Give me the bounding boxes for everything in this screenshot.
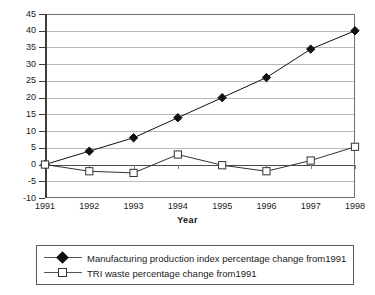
gridline bbox=[46, 131, 354, 132]
y-axis-tick-label: 5 bbox=[10, 143, 36, 152]
gridline bbox=[46, 114, 354, 115]
y-axis-tick-mark bbox=[39, 31, 45, 32]
plot-area bbox=[45, 14, 355, 198]
x-axis-tick-label: 1998 bbox=[335, 201, 375, 211]
y-axis-tick-label: 0 bbox=[10, 160, 36, 169]
y-axis-tick-mark bbox=[39, 148, 45, 149]
x-axis-tick-label: 1997 bbox=[291, 201, 331, 211]
x-axis-tick-mark bbox=[89, 165, 90, 169]
y-axis-tick-mark bbox=[39, 47, 45, 48]
y-axis-tick-label: 40 bbox=[10, 26, 36, 35]
legend-item-tri-waste: TRI waste percentage change from1991 bbox=[44, 266, 257, 280]
y-axis-tick-mark bbox=[39, 181, 45, 182]
y-axis-tick-mark bbox=[39, 64, 45, 65]
y-axis-tick-mark bbox=[39, 98, 45, 99]
gridline bbox=[46, 81, 354, 82]
x-axis-tick-label: 1994 bbox=[158, 201, 198, 211]
x-axis-tick-mark bbox=[266, 165, 267, 169]
open-square-marker-icon bbox=[44, 267, 82, 279]
y-axis-tick-mark bbox=[39, 165, 45, 166]
gridline bbox=[46, 98, 354, 99]
y-axis-tick-mark bbox=[39, 81, 45, 82]
legend-label-manufacturing: Manufacturing production index percentag… bbox=[82, 253, 346, 264]
y-axis-tick-mark bbox=[39, 198, 45, 199]
x-axis-tick-label: 1991 bbox=[25, 201, 65, 211]
legend-label-tri-waste: TRI waste percentage change from1991 bbox=[82, 268, 257, 279]
x-axis-tick-mark bbox=[355, 165, 356, 169]
y-axis-tick-label: -5 bbox=[10, 177, 36, 186]
x-axis-tick-mark bbox=[178, 165, 179, 169]
y-axis-tick-mark bbox=[39, 14, 45, 15]
x-axis-tick-mark bbox=[134, 165, 135, 169]
y-axis-tick-label: 20 bbox=[10, 93, 36, 102]
x-axis-title: Year bbox=[0, 215, 375, 225]
gridline bbox=[46, 47, 354, 48]
y-axis-tick-label: 15 bbox=[10, 110, 36, 119]
y-axis-tick-label: 25 bbox=[10, 76, 36, 85]
x-axis-tick-label: 1995 bbox=[202, 201, 242, 211]
gridline bbox=[46, 148, 354, 149]
x-axis-tick-label: 1992 bbox=[69, 201, 109, 211]
filled-diamond-marker-icon bbox=[44, 252, 82, 264]
gridline bbox=[46, 31, 354, 32]
legend-item-manufacturing: Manufacturing production index percentag… bbox=[44, 251, 346, 265]
gridline bbox=[46, 181, 354, 182]
x-axis-tick-mark bbox=[222, 165, 223, 169]
y-axis-tick-label: 30 bbox=[10, 60, 36, 69]
x-axis-tick-label: 1993 bbox=[114, 201, 154, 211]
y-axis-tick-mark bbox=[39, 114, 45, 115]
y-axis-tick-label: 10 bbox=[10, 127, 36, 136]
y-axis-line bbox=[45, 14, 47, 198]
chart-container: 454035302520151050-5-10 1991199219931994… bbox=[0, 0, 375, 295]
y-axis-tick-mark bbox=[39, 131, 45, 132]
zero-line bbox=[46, 165, 354, 166]
y-axis-tick-label: 45 bbox=[10, 10, 36, 19]
x-axis-tick-mark bbox=[311, 165, 312, 169]
y-axis-tick-label: 35 bbox=[10, 43, 36, 52]
chart-legend: Manufacturing production index percentag… bbox=[36, 245, 354, 285]
x-axis-tick-label: 1996 bbox=[246, 201, 286, 211]
gridline bbox=[46, 64, 354, 65]
